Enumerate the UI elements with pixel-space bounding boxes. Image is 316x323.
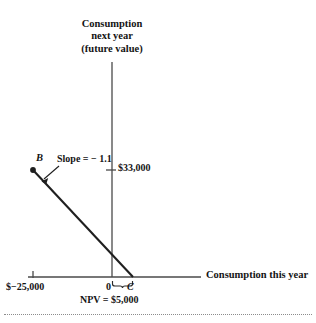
- origin-label: 0: [106, 281, 111, 293]
- y-axis-tick-label-33000: $33,000: [118, 162, 151, 174]
- footer-dotted-rule: [4, 314, 312, 315]
- npv-value-label: NPV = $5,000: [80, 294, 139, 306]
- y-axis-title-line-2: next year: [48, 30, 176, 42]
- x-axis-tick-label-negative-25000: $−25,000: [6, 281, 44, 293]
- x-axis-title: Consumption this year: [206, 269, 308, 281]
- budget-line-bc: [33, 170, 133, 277]
- point-b-label: B: [36, 152, 43, 164]
- point-b-marker: [30, 167, 36, 173]
- slope-annotation-label: Slope = − 1.1: [57, 153, 112, 165]
- y-axis-title-line-3: (future value): [48, 43, 176, 55]
- point-c-label: C: [127, 281, 134, 293]
- y-axis-title: Consumption next year (future value): [48, 18, 176, 55]
- y-axis-title-line-1: Consumption: [48, 18, 176, 30]
- figure-canvas: Consumption next year (future value) Con…: [0, 0, 316, 323]
- slope-leader-line: [44, 166, 59, 179]
